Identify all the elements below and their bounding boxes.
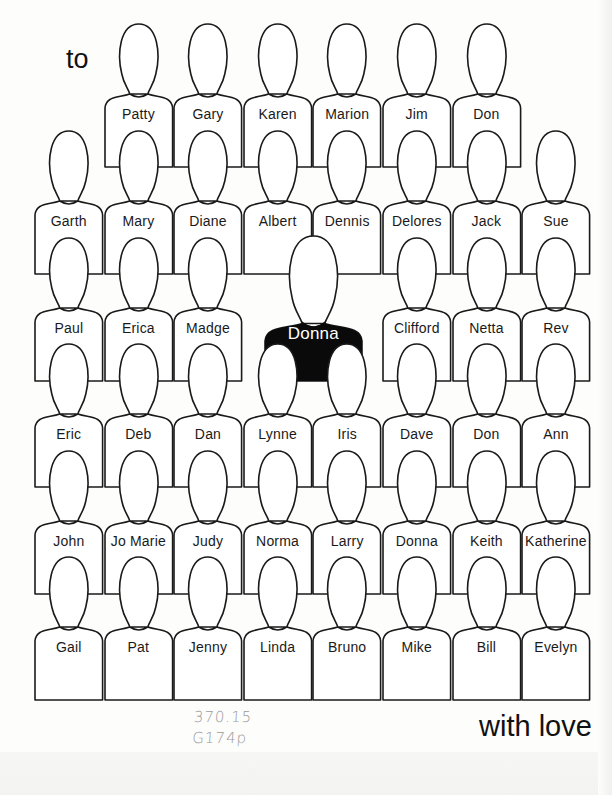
person-name-label: Keith [452, 533, 522, 549]
person-jenny-r5c2: Jenny [173, 557, 243, 700]
person-name-label: Gail [34, 639, 104, 655]
person-name-label: Clifford [382, 320, 452, 336]
person-name-label: Larry [312, 533, 382, 549]
person-name-label: Garth [34, 213, 104, 229]
person-name-label: Dan [173, 426, 243, 442]
person-name-label: Judy [173, 533, 243, 549]
person-name-label: Netta [452, 320, 522, 336]
person-silhouette-icon [243, 557, 313, 700]
person-name-label: Don [452, 106, 522, 122]
person-name-label: Gary [173, 106, 243, 122]
person-name-label: Rev [521, 320, 591, 336]
person-silhouette-icon [34, 557, 104, 700]
person-bruno-r5c4: Bruno [312, 557, 382, 700]
person-name-label: Sue [521, 213, 591, 229]
person-silhouette-icon [173, 557, 243, 700]
person-name-label: Marion [312, 106, 382, 122]
people-grid: PattyGaryKarenMarionJimDonGarthMaryDiane… [0, 0, 612, 795]
person-name-label: Donna [264, 324, 363, 344]
person-name-label: Pat [104, 639, 174, 655]
person-name-label: Iris [312, 426, 382, 442]
person-name-label: Erica [104, 320, 174, 336]
person-name-label: Mary [104, 213, 174, 229]
person-name-label: Deb [104, 426, 174, 442]
person-name-label: Donna [382, 533, 452, 549]
person-evelyn-r5c7: Evelyn [521, 557, 591, 700]
person-name-label: Jo Marie [104, 533, 174, 549]
person-name-label: Delores [382, 213, 452, 229]
person-mike-r5c5: Mike [382, 557, 452, 700]
person-name-label: Norma [243, 533, 313, 549]
person-name-label: Bill [452, 639, 522, 655]
person-name-label: Madge [173, 320, 243, 336]
person-name-label: Dave [382, 426, 452, 442]
person-name-label: Paul [34, 320, 104, 336]
person-gail-r5c0: Gail [34, 557, 104, 700]
person-name-label: Evelyn [521, 639, 591, 655]
person-silhouette-icon [452, 557, 522, 700]
person-linda-r5c3: Linda [243, 557, 313, 700]
call-number-line-1: 370.15 [193, 707, 264, 728]
person-name-label: Ann [521, 426, 591, 442]
person-name-label: John [34, 533, 104, 549]
person-name-label: Jim [382, 106, 452, 122]
person-name-label: Dennis [312, 213, 382, 229]
person-name-label: Jack [452, 213, 522, 229]
person-name-label: Mike [382, 639, 452, 655]
handwritten-call-number: 370.15 G174p [192, 707, 265, 749]
person-name-label: Lynne [243, 426, 313, 442]
with-love-closing: with love [479, 710, 592, 743]
person-silhouette-icon [104, 557, 174, 700]
person-name-label: Jenny [173, 639, 243, 655]
person-name-label: Bruno [312, 639, 382, 655]
person-silhouette-icon [521, 557, 591, 700]
person-name-label: Linda [243, 639, 313, 655]
person-name-label: Eric [34, 426, 104, 442]
person-pat-r5c1: Pat [104, 557, 174, 700]
person-name-label: Don [452, 426, 522, 442]
person-name-label: Diane [173, 213, 243, 229]
person-silhouette-icon [382, 557, 452, 700]
person-silhouette-icon [312, 557, 382, 700]
person-name-label: Patty [104, 106, 174, 122]
person-name-label: Katherine [521, 533, 591, 549]
person-bill-r5c6: Bill [452, 557, 522, 700]
person-name-label: Albert [243, 213, 313, 229]
call-number-line-2: G174p [192, 728, 263, 749]
person-name-label: Karen [243, 106, 313, 122]
